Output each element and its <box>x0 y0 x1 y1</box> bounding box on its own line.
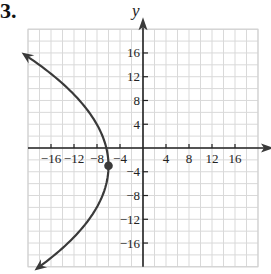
x-tick-label: −16 <box>41 151 62 166</box>
y-tick-label: −12 <box>120 212 140 227</box>
x-tick-label: 4 <box>163 151 170 166</box>
curve-arrow-up-icon <box>22 52 35 63</box>
y-tick-label: −8 <box>126 188 140 203</box>
x-tick-label: 16 <box>229 151 243 166</box>
vertex-point <box>104 162 113 171</box>
x-tick-label: −8 <box>90 151 104 166</box>
x-tick-label: 12 <box>206 151 219 166</box>
y-tick-label: 4 <box>134 117 141 132</box>
y-tick-label: 16 <box>127 45 141 60</box>
x-tick-label: 8 <box>186 151 193 166</box>
y-tick-label: −16 <box>120 236 141 251</box>
y-tick-label: 12 <box>127 69 140 84</box>
y-tick-label: −4 <box>126 164 140 179</box>
y-tick-label: 8 <box>134 93 141 108</box>
y-axis-label: y <box>130 1 140 20</box>
x-tick-label: −12 <box>64 151 84 166</box>
coordinate-plane: xy −16−12−8−4481216161284−4−8−12−16 <box>0 0 271 274</box>
curve-arrow-down-icon <box>34 259 47 270</box>
